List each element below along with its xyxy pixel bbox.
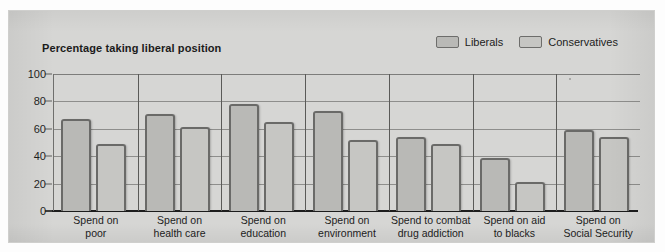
- y-axis-tick-label: 80: [6, 95, 46, 107]
- chart-legend: LiberalsConservatives: [436, 36, 618, 48]
- bar-liberals-5[interactable]: [480, 158, 510, 211]
- figure-root: Percentage taking liberal position Liber…: [0, 0, 665, 252]
- bar-liberals-1[interactable]: [145, 114, 175, 211]
- category-separator: [305, 74, 306, 211]
- y-tick-mark-0: [45, 211, 52, 212]
- x-axis-label-line: Social Security: [547, 227, 649, 240]
- x-axis-category-label: Spend onSocial Security: [547, 214, 649, 239]
- gridline-100: [54, 74, 640, 75]
- legend-label: Liberals: [465, 36, 504, 48]
- scan-artifact-speck: [569, 78, 571, 80]
- bar-conservatives-2[interactable]: [264, 122, 294, 211]
- plot-area: 020406080100: [54, 74, 640, 211]
- legend-item-liberals[interactable]: Liberals: [436, 36, 504, 48]
- bar-liberals-4[interactable]: [396, 137, 426, 211]
- y-tick-mark-60: [45, 128, 52, 129]
- bar-liberals-3[interactable]: [313, 111, 343, 211]
- bar-conservatives-5[interactable]: [515, 182, 545, 211]
- legend-swatch-icon: [436, 36, 459, 48]
- y-tick-mark-80: [45, 101, 52, 102]
- y-axis-tick-label: 20: [6, 178, 46, 190]
- bar-liberals-6[interactable]: [564, 130, 594, 211]
- bar-conservatives-0[interactable]: [96, 144, 126, 211]
- page-title: Percentage taking liberal position: [42, 42, 221, 54]
- y-tick-mark-100: [45, 74, 52, 75]
- bar-liberals-2[interactable]: [229, 104, 259, 211]
- x-axis-label-line: Spend on: [547, 214, 649, 227]
- bar-conservatives-1[interactable]: [180, 127, 210, 211]
- gridline-80: [54, 101, 640, 102]
- legend-item-conservatives[interactable]: Conservatives: [519, 36, 618, 48]
- category-separator: [556, 74, 557, 211]
- y-axis-tick-label: 0: [6, 205, 46, 217]
- category-separator: [221, 74, 222, 211]
- gridline-60: [54, 129, 640, 130]
- category-separator: [138, 74, 139, 211]
- y-tick-mark-40: [45, 156, 52, 157]
- y-axis-line: [53, 74, 54, 211]
- x-axis-labels: Spend onpoorSpend onhealth careSpend one…: [54, 214, 640, 244]
- legend-label: Conservatives: [548, 36, 618, 48]
- y-axis-tick-label: 100: [6, 68, 46, 80]
- y-axis-tick-label: 60: [6, 123, 46, 135]
- bar-conservatives-6[interactable]: [599, 137, 629, 211]
- chart-panel: Percentage taking liberal position Liber…: [9, 11, 654, 242]
- y-tick-mark-20: [45, 183, 52, 184]
- y-axis-tick-label: 40: [6, 150, 46, 162]
- category-separator: [473, 74, 474, 211]
- legend-swatch-icon: [519, 36, 542, 48]
- bar-liberals-0[interactable]: [61, 119, 91, 211]
- bar-conservatives-4[interactable]: [431, 144, 461, 211]
- category-separator: [389, 74, 390, 211]
- bar-conservatives-3[interactable]: [348, 140, 378, 211]
